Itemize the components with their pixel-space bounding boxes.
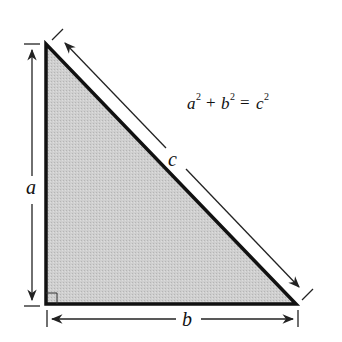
svg-text:=: = <box>240 93 250 112</box>
pythagorean-diagram: a b c a 2 + b 2 = c 2 <box>0 0 342 342</box>
svg-text:b: b <box>221 94 230 113</box>
svg-text:+: + <box>206 93 216 112</box>
label-c: c <box>168 148 177 170</box>
svg-text:2: 2 <box>230 91 235 102</box>
label-a: a <box>26 176 36 198</box>
label-b: b <box>182 308 192 330</box>
tick-c-bottom <box>302 289 313 300</box>
svg-text:a: a <box>187 94 196 113</box>
right-triangle <box>46 44 296 304</box>
pythagorean-equation: a 2 + b 2 = c 2 <box>187 91 269 113</box>
svg-text:2: 2 <box>196 91 201 102</box>
svg-text:c: c <box>256 94 264 113</box>
svg-text:2: 2 <box>264 91 269 102</box>
tick-c-top <box>52 29 63 40</box>
